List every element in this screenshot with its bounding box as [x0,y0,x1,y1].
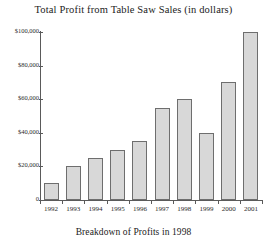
bar-1995 [110,150,125,200]
x-axis-tick-label: 1998 [173,205,195,214]
x-axis-tick-label: 2000 [218,205,240,214]
x-axis-tick-mark [151,200,152,204]
bar-1997 [155,108,170,200]
x-axis-tick-mark [240,200,241,204]
y-axis-tick-label: $80,000 [18,61,39,68]
bar-1999 [199,133,214,200]
x-axis-tick-label: 1994 [84,205,106,214]
x-axis-tick-label: 1995 [107,205,129,214]
y-axis-tick-label: $60,000 [18,94,39,101]
x-axis-tick-mark [62,200,63,204]
x-axis-tick-mark [84,200,85,204]
figure-caption: Breakdown of Profits in 1998 [0,226,267,238]
x-axis-tick-label: 1996 [129,205,151,214]
x-axis-tick-mark [107,200,108,204]
x-axis-tick-mark [195,200,196,204]
x-axis-tick-label: 1992 [40,205,62,214]
chart-title: Total Profit from Table Saw Sales (in do… [0,3,267,16]
bar-1993 [66,166,81,200]
x-axis-tick-mark [129,200,130,204]
x-axis-tick-label: 1997 [151,205,173,214]
bar-1994 [88,158,103,200]
plot-area [40,32,262,200]
x-axis-tick-mark [173,200,174,204]
x-axis-tick-mark [40,200,41,204]
bar-2001 [243,32,258,200]
bar-chart-figure: Total Profit from Table Saw Sales (in do… [0,0,267,246]
x-axis-tick-label: 1999 [195,205,217,214]
bar-2000 [221,82,236,200]
y-axis-tick-label: $40,000 [18,128,39,135]
x-axis-tick-mark [218,200,219,204]
y-axis-tick-label: $20,000 [18,161,39,168]
bar-1996 [132,141,147,200]
x-axis-tick-label: 1993 [62,205,84,214]
x-axis-tick-label: 2001 [240,205,262,214]
bar-1992 [44,183,59,200]
x-axis-tick-mark [262,200,263,204]
y-axis-tick-label: $100,000 [15,27,39,34]
bar-1998 [177,99,192,200]
